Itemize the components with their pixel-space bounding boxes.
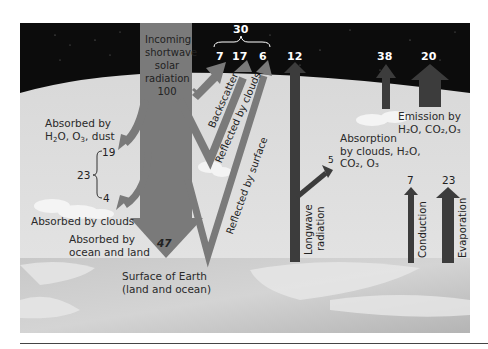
evaporation-value: 23 (442, 174, 455, 186)
emission-label: Emission by H₂O, CO₂,O₃ (398, 110, 461, 135)
longwave-line-1: Longwave (303, 204, 315, 255)
emission-gases-value: 20 (421, 50, 436, 63)
energy-budget-diagram: Incoming shortwave solar radiation 100 3… (0, 0, 488, 349)
longwave-line-2: radiation (315, 204, 327, 255)
surface-line-1: Surface of Earth (122, 270, 211, 283)
conduction-value: 7 (407, 174, 414, 186)
incoming-line-1: Incoming (145, 33, 189, 46)
absorbed-atmosphere-total: 23 (77, 169, 90, 181)
incoming-line-4: radiation (145, 72, 189, 85)
emission-line-2: H₂O, CO₂,O₃ (398, 123, 461, 136)
emission-line-1: Emission by (398, 110, 461, 123)
bottom-rule (20, 343, 488, 344)
incoming-value: 100 (145, 85, 189, 98)
surface-label: Surface of Earth (land and ocean) (122, 270, 211, 295)
incoming-line-2: shortwave (145, 46, 189, 59)
absorbed-h2o-line-2: H2O, O3, dust (45, 130, 115, 143)
reflected-surface-value: 6 (259, 50, 267, 63)
absorbed-surface-line-2: ocean and land (69, 246, 150, 259)
longwave-absorbed-value: 5 (328, 155, 334, 165)
backscatter-value: 7 (216, 50, 224, 63)
reflected-total: 30 (233, 23, 248, 36)
absorbed-surface-value: 47 (157, 237, 172, 249)
absorbed-surface-line-1: Absorbed by (69, 233, 150, 246)
absorbed-clouds-label: Absorbed by clouds (31, 215, 134, 228)
absorbed-dust-value: 19 (102, 146, 115, 158)
absorbed-h2o-line-1: Absorbed by (45, 117, 115, 130)
evaporation-label: Evaporation (457, 198, 468, 258)
surface-line-2: (land and ocean) (122, 283, 211, 296)
absorption-label: Absorption by clouds, H₂O, CO₂, O₃ (340, 132, 421, 170)
absorption-line-3: CO₂, O₃ (340, 157, 421, 170)
incoming-line-3: solar (145, 59, 189, 72)
absorbed-clouds-value: 4 (103, 192, 110, 204)
reflected-clouds-value: 17 (232, 50, 247, 63)
absorbed-h2o-label: Absorbed by H2O, O3, dust (45, 117, 115, 142)
conduction-label: Conduction (417, 201, 428, 258)
absorption-line-2: by clouds, H₂O, (340, 145, 421, 158)
incoming-label: Incoming shortwave solar radiation 100 (145, 33, 189, 98)
longwave-space-value: 12 (287, 50, 302, 63)
longwave-label: Longwave radiation (303, 204, 327, 255)
absorbed-surface-label: Absorbed by ocean and land (69, 233, 150, 258)
emission-clouds-value: 38 (377, 50, 392, 63)
